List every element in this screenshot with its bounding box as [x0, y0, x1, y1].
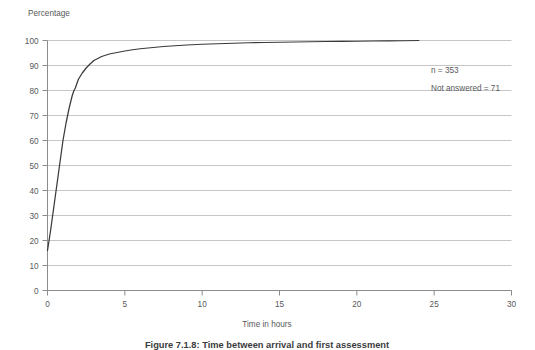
x-tick-label-30: 30: [507, 300, 517, 309]
y-tick-label-80: 80: [29, 87, 39, 96]
y-tick-label-0: 0: [34, 287, 39, 296]
y-tick-label-100: 100: [25, 37, 39, 46]
y-tick-label-70: 70: [29, 112, 39, 121]
series-line-0: [48, 41, 419, 251]
x-axis-ticks-group: 051015202530: [45, 291, 516, 309]
not-answered-annotation: Not answered = 71: [431, 84, 500, 93]
y-tick-label-30: 30: [29, 212, 39, 221]
x-tick-label-15: 15: [275, 300, 285, 309]
x-tick-label-5: 5: [123, 300, 128, 309]
y-axis-ticks-group: 0102030405060708090100: [25, 37, 48, 296]
y-tick-label-50: 50: [29, 162, 39, 171]
x-tick-label-20: 20: [352, 300, 362, 309]
x-tick-label-0: 0: [45, 300, 50, 309]
y-axis-title: Percentage: [28, 9, 70, 18]
y-tick-label-10: 10: [29, 262, 39, 271]
sample-size-annotation: n = 353: [431, 66, 459, 75]
gridlines-group: [48, 41, 512, 291]
x-tick-label-10: 10: [198, 300, 208, 309]
x-tick-label-25: 25: [430, 300, 440, 309]
x-axis-title: Time in hours: [242, 320, 291, 329]
y-tick-label-40: 40: [29, 187, 39, 196]
data-series-group: [48, 41, 419, 251]
y-tick-label-90: 90: [29, 62, 39, 71]
chart-canvas: 051015202530 0102030405060708090100 Perc…: [0, 0, 535, 350]
y-tick-label-60: 60: [29, 137, 39, 146]
figure-container: 051015202530 0102030405060708090100 Perc…: [0, 0, 535, 350]
figure-caption: Figure 7.1.8: Time between arrival and f…: [145, 340, 389, 350]
y-tick-label-20: 20: [29, 237, 39, 246]
